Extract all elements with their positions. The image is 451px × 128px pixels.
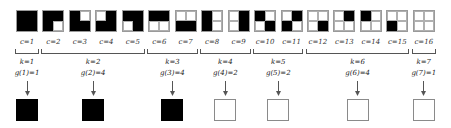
empty-cell <box>387 11 397 21</box>
filled-cell <box>361 11 371 21</box>
filled-cell <box>318 21 328 31</box>
empty-cell <box>255 21 265 31</box>
group-k-label: k=3 <box>147 58 197 66</box>
group-k-label: k=1 <box>2 58 52 66</box>
empty-cell <box>414 11 424 21</box>
output-square <box>347 99 369 121</box>
filled-cell <box>106 11 116 21</box>
filled-cell <box>133 21 143 31</box>
pattern-tile <box>386 10 408 32</box>
pattern-tile <box>281 10 303 32</box>
group-bracket <box>147 49 197 54</box>
empty-cell <box>265 11 275 21</box>
filled-cell <box>176 21 186 31</box>
output-square <box>267 99 289 121</box>
filled-cell <box>106 21 116 31</box>
filled-cell <box>27 11 37 21</box>
group-k-label: k=2 <box>68 58 118 66</box>
output-square <box>161 99 183 121</box>
output-square <box>16 99 38 121</box>
empty-cell <box>397 21 407 31</box>
down-arrow-icon <box>354 81 361 97</box>
pattern-tile <box>95 10 117 32</box>
output-square <box>413 99 435 121</box>
empty-cell <box>361 21 371 31</box>
group-bracket <box>41 49 144 54</box>
filled-cell <box>96 21 106 31</box>
filled-cell <box>43 11 53 21</box>
empty-cell <box>414 21 424 31</box>
filled-cell <box>123 11 133 21</box>
group-g-label: g(1)=1 <box>2 69 52 77</box>
empty-cell <box>397 11 407 21</box>
empty-cell <box>318 11 328 21</box>
empty-cell <box>424 21 434 31</box>
empty-cell <box>176 11 186 21</box>
filled-cell <box>202 11 212 21</box>
group-k-label: k=5 <box>253 58 303 66</box>
empty-cell <box>80 11 90 21</box>
empty-cell <box>53 21 63 31</box>
pattern-tile <box>360 10 382 32</box>
empty-cell <box>334 11 344 21</box>
empty-cell <box>371 11 381 21</box>
group-g-label: g(3)=4 <box>147 69 197 77</box>
empty-cell <box>186 11 196 21</box>
empty-cell <box>229 11 239 21</box>
empty-cell <box>212 11 222 21</box>
output-square <box>214 99 236 121</box>
empty-cell <box>292 21 302 31</box>
pattern-tile <box>201 10 223 32</box>
down-arrow-icon <box>24 81 31 97</box>
empty-cell <box>123 21 133 31</box>
filled-cell <box>186 21 196 31</box>
pattern-tile <box>254 10 276 32</box>
down-arrow-icon <box>169 81 176 97</box>
group-bracket <box>412 49 436 54</box>
down-arrow-icon <box>275 81 282 97</box>
empty-cell <box>308 21 318 31</box>
filled-cell <box>265 21 275 31</box>
down-arrow-icon <box>90 81 97 97</box>
pattern-tile <box>228 10 250 32</box>
empty-cell <box>149 21 159 31</box>
filled-cell <box>387 21 397 31</box>
empty-cell <box>96 11 106 21</box>
filled-cell <box>70 21 80 31</box>
down-arrow-icon <box>222 81 229 97</box>
group-bracket <box>15 49 39 54</box>
pattern-tile <box>307 10 329 32</box>
empty-cell <box>371 21 381 31</box>
filled-cell <box>53 11 63 21</box>
filled-cell <box>27 21 37 31</box>
group-g-label: g(4)=2 <box>200 69 250 77</box>
empty-cell <box>308 11 318 21</box>
group-k-label: k=6 <box>333 58 383 66</box>
group-g-label: g(2)=4 <box>68 69 118 77</box>
empty-cell <box>229 21 239 31</box>
empty-cell <box>282 11 292 21</box>
filled-cell <box>344 11 354 21</box>
empty-cell <box>344 21 354 31</box>
filled-cell <box>70 11 80 21</box>
filled-cell <box>133 11 143 21</box>
pattern-label: c=16 <box>409 38 439 46</box>
filled-cell <box>239 21 249 31</box>
pattern-tile <box>148 10 170 32</box>
group-g-label: g(5)=2 <box>253 69 303 77</box>
filled-cell <box>17 11 27 21</box>
filled-cell <box>43 21 53 31</box>
empty-cell <box>212 21 222 31</box>
group-bracket <box>200 49 250 54</box>
group-g-label: g(7)=1 <box>399 69 449 77</box>
filled-cell <box>159 11 169 21</box>
empty-cell <box>424 11 434 21</box>
empty-cell <box>159 21 169 31</box>
pattern-tile <box>69 10 91 32</box>
filled-cell <box>239 11 249 21</box>
pattern-tile <box>122 10 144 32</box>
output-square <box>82 99 104 121</box>
empty-cell <box>334 21 344 31</box>
pattern-tile <box>42 10 64 32</box>
filled-cell <box>80 21 90 31</box>
